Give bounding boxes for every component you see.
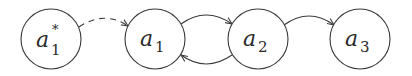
edge-a2-to-a3 <box>284 16 334 25</box>
node-a3: a 3 <box>330 9 390 69</box>
node-subscript: 2 <box>258 38 268 56</box>
node-circle <box>21 9 81 69</box>
edge-a1-to-a2 <box>181 15 232 24</box>
node-a1-star: a 1 * <box>21 9 81 69</box>
node-label: a <box>140 26 153 51</box>
node-label: a <box>36 27 49 52</box>
state-diagram: a 1 * a 1 a 2 a 3 <box>0 0 412 76</box>
node-label: a <box>243 26 256 51</box>
node-subscript: 1 <box>51 41 61 59</box>
edge-a2-to-a1 <box>181 55 232 64</box>
node-superscript: * <box>52 22 59 37</box>
edge-a1star-to-a1 <box>79 18 128 27</box>
node-subscript: 3 <box>360 38 370 56</box>
node-label: a <box>345 26 358 51</box>
node-a1: a 1 <box>125 9 185 69</box>
node-a2: a 2 <box>228 9 288 69</box>
node-subscript: 1 <box>155 38 165 56</box>
